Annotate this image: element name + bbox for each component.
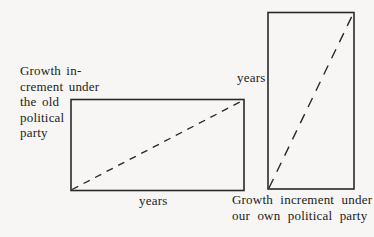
label-line: Growth increment under — [232, 192, 372, 208]
label-line: the old — [20, 94, 99, 110]
label-line: political — [20, 110, 99, 126]
own-party-growth-label: Growth increment under our own political… — [232, 192, 372, 223]
label-line: party — [20, 125, 99, 141]
old-party-growth-label: Growth in- crement under the old politic… — [20, 63, 99, 141]
label-line: our own political party — [232, 208, 372, 224]
label-line: Growth in- — [20, 63, 99, 79]
own-party-years-axis-label: years — [237, 70, 265, 86]
label-line: crement under — [20, 79, 99, 95]
old-party-years-axis-label: years — [139, 193, 167, 209]
own-party-diagonal — [269, 14, 353, 188]
